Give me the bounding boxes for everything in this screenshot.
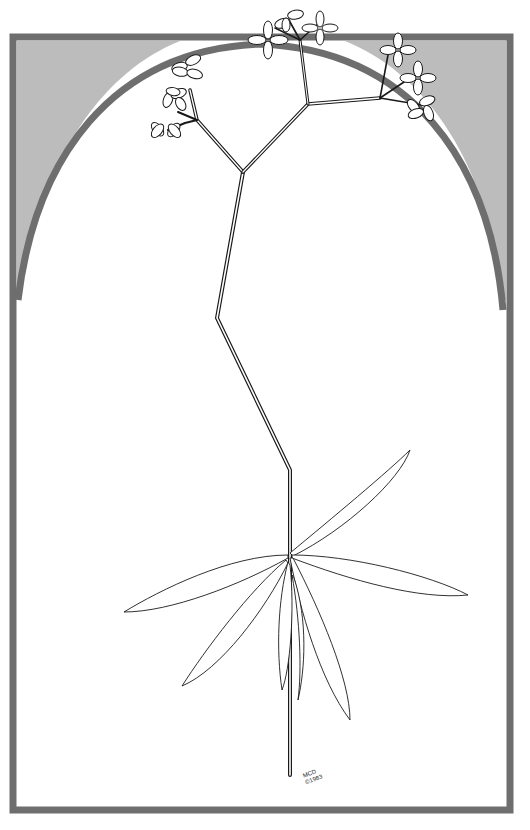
botanical-illustration: [0, 0, 530, 830]
flower: [273, 9, 304, 32]
